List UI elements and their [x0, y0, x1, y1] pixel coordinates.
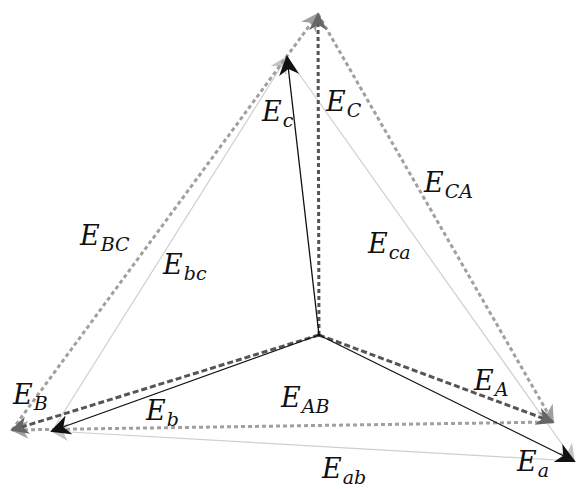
vector-e-CA	[318, 14, 553, 422]
label-E_BC: EBC	[80, 222, 130, 254]
neutral-point	[318, 334, 321, 337]
label-E_C: EC	[326, 88, 361, 120]
vector-e-b	[52, 335, 319, 431]
label-E_AB: EAB	[281, 384, 329, 416]
label-E_CA: ECA	[424, 169, 473, 201]
label-E_bc: Ebc	[163, 251, 207, 283]
vector-e-AB	[12, 422, 553, 430]
vector-e-a	[319, 335, 574, 461]
vector-e-BC	[12, 14, 318, 430]
label-E_ca: Eca	[368, 230, 411, 262]
vector-e-C	[318, 14, 319, 335]
vector-e-ab	[52, 431, 574, 461]
vector-e-A	[319, 335, 553, 422]
label-E_ab: Eab	[322, 455, 366, 487]
label-E_B: EB	[13, 381, 48, 413]
label-E_A: EA	[474, 367, 508, 399]
label-E_c: Ec	[262, 98, 293, 130]
label-E_b: Eb	[146, 397, 179, 429]
label-E_a: Ea	[517, 448, 549, 480]
